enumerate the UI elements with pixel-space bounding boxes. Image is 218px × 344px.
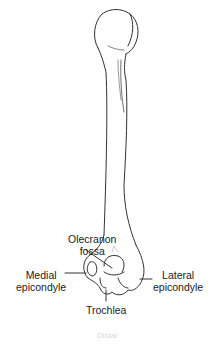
shaft-lateral-border [124, 54, 136, 245]
label-lateral-epicondyle: Lateral epicondyle [153, 269, 203, 293]
label-line: epicondyle [153, 281, 203, 293]
label-medial-epicondyle: Medial epicondyle [16, 269, 66, 293]
label-line: fossa [68, 245, 116, 257]
label-line: epicondyle [16, 281, 66, 293]
label-line: Olecranon [68, 233, 116, 245]
shaft-medial-border [98, 48, 107, 235]
label-line: Medial [16, 269, 66, 281]
figure-caption: Distal [92, 331, 122, 340]
label-olecranon-fossa: Olecranon fossa [68, 233, 116, 257]
label-trochlea: Trochlea [86, 304, 126, 316]
olecranon-fossa-shape [104, 255, 124, 272]
label-line: Lateral [153, 269, 203, 281]
